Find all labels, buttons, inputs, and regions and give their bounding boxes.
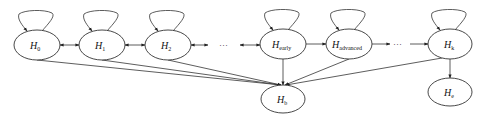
self-loop-hearly	[265, 9, 300, 30]
node-h1: H1	[79, 30, 125, 60]
ellipsis-1: ···	[219, 40, 228, 50]
self-loop-h2	[150, 10, 185, 31]
ellipsis-2: ···	[393, 39, 402, 49]
edge-hk-hb	[286, 58, 442, 85]
self-loop-hadvanced	[331, 9, 366, 30]
edges-to-hb	[37, 58, 442, 85]
node-hadvanced: Hadvanced	[326, 29, 372, 59]
edge-h0-hb	[37, 60, 281, 85]
edge-h1-hb	[102, 60, 281, 85]
node-hearly: Hearly	[260, 29, 306, 59]
state-diagram: ··· ··· H0 H1 H2 Hearly Hadvanced Hk Hb …	[0, 0, 484, 120]
self-loops	[19, 9, 467, 31]
node-hk: Hk	[428, 29, 472, 59]
node-hb: Hb	[261, 85, 305, 113]
self-loop-hk	[432, 9, 467, 30]
self-loop-h1	[84, 10, 119, 31]
edge-hadvanced-hb	[285, 59, 349, 85]
edge-h2-hb	[168, 60, 281, 85]
self-loop-h0	[19, 10, 54, 31]
node-h2: H2	[145, 30, 191, 60]
node-h0: H0	[14, 30, 60, 60]
node-he: He	[428, 78, 472, 106]
